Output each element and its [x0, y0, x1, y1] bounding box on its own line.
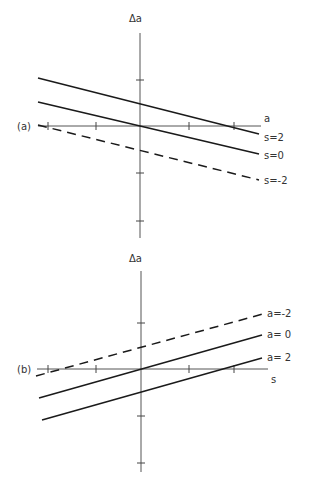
- line-label: s=2: [264, 132, 284, 143]
- x-axis-label: a: [264, 113, 270, 124]
- line-s-neg2: [38, 125, 259, 180]
- line-a-2: [42, 358, 262, 420]
- y-axis-label: Δa: [129, 13, 142, 24]
- line-label: s=-2: [264, 175, 288, 186]
- line-label: a= 0: [267, 329, 291, 340]
- panel-label: (b): [17, 364, 31, 375]
- line-label: s=0: [264, 150, 284, 161]
- diagram-canvas: Δa a (a) s=2 s=0 s=-2 Δa s (b) a=-2 a= 0…: [0, 0, 311, 483]
- panel-label: (a): [17, 121, 31, 132]
- panel-a: Δa a (a) s=2 s=0 s=-2: [17, 13, 288, 238]
- x-axis-label: s: [271, 374, 276, 385]
- line-s-0: [38, 102, 259, 154]
- line-label: a= 2: [267, 352, 291, 363]
- y-axis-label: Δa: [129, 253, 142, 264]
- panel-b: Δa s (b) a=-2 a= 0 a= 2: [17, 253, 291, 472]
- line-label: a=-2: [267, 308, 291, 319]
